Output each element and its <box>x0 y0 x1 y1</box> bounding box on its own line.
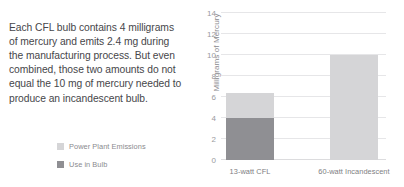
bar-segment[interactable] <box>226 118 274 160</box>
legend-item-label: Power Plant Emissions <box>69 142 146 151</box>
y-axis-tick-label: 12 <box>207 30 216 39</box>
infographic-root: Each CFL bulb contains 4 milligrams of m… <box>0 0 404 187</box>
y-axis-tick-label: 14 <box>207 9 216 18</box>
annotation-paragraph: Each CFL bulb contains 4 milligrams of m… <box>9 21 185 105</box>
y-axis-tick-label: 4 <box>212 114 216 123</box>
y-axis-tick-label: 10 <box>207 51 216 60</box>
bar-chart: Milligrams of Mercury 0246810121413-watt… <box>196 0 404 187</box>
x-axis-tick-label: 13-watt CFL <box>230 167 271 176</box>
x-axis-tick-label: 60-watt Incandescent <box>318 167 389 176</box>
legend-swatch-icon <box>57 143 64 150</box>
legend-item-power-plant-emissions: Power Plant Emissions <box>57 140 195 153</box>
y-axis-tick-label: 8 <box>212 72 216 81</box>
legend-swatch-icon <box>57 161 64 168</box>
y-axis-tick-label: 6 <box>212 93 216 102</box>
legend-item-label: Use in Bulb <box>69 160 107 169</box>
bar-group[interactable]: 13-watt CFL <box>226 93 274 160</box>
legend-item-use-in-bulb: Use in Bulb <box>57 158 195 171</box>
chart-legend: Power Plant Emissions Use in Bulb <box>57 140 195 176</box>
plot-area: 0246810121413-watt CFL60-watt Incandesce… <box>221 13 386 160</box>
y-axis-tick-label: 0 <box>212 156 216 165</box>
gridline <box>221 33 386 34</box>
y-axis-tick-label: 2 <box>212 135 216 144</box>
bar-segment[interactable] <box>330 55 378 160</box>
bar-segment[interactable] <box>226 93 274 118</box>
bar-group[interactable]: 60-watt Incandescent <box>330 55 378 160</box>
gridline <box>221 12 386 13</box>
text-panel: Each CFL bulb contains 4 milligrams of m… <box>0 0 196 187</box>
